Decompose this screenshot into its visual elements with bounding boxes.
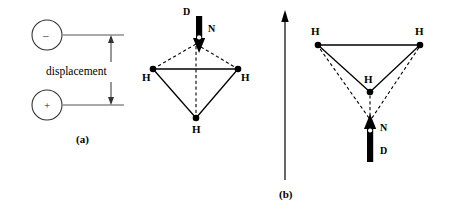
bond-dashed-n-to-h-right-inv — [372, 46, 420, 118]
positive-charge-sign: + — [44, 100, 50, 111]
transition-arrow-up — [281, 10, 288, 180]
dipole-label-up: D — [183, 7, 190, 17]
atom-node-hydrogen-right-inv — [417, 42, 424, 49]
hydrogen-label-front-up: H — [192, 124, 201, 135]
figure-vector-layer — [0, 0, 451, 218]
bond-dashed-n-to-h-left-inv — [318, 46, 369, 118]
dimension-arrowhead-top — [108, 35, 114, 43]
nitrogen-label-inv: N — [380, 123, 387, 133]
nitrogen-atom-marker-inv — [368, 128, 372, 132]
atom-node-hydrogen-front-inv — [367, 89, 374, 96]
bond-h-right-to-h-front — [196, 69, 238, 118]
bond-h-left-to-h-front — [153, 69, 196, 118]
dipole-label-inv: D — [380, 146, 387, 156]
nitrogen-atom-marker — [197, 35, 201, 39]
bond-h-left-to-h-front-inv — [318, 45, 370, 92]
panel-a-caption: (a) — [76, 134, 89, 145]
hydrogen-label-left-up: H — [142, 72, 151, 83]
bond-h-right-to-h-front-inv — [370, 45, 420, 92]
hydrogen-label-right-inv: H — [415, 26, 424, 37]
dipole-arrow-head-inv — [364, 114, 376, 129]
figure-canvas: – + displacement (a) D N H H H H H H N D… — [0, 0, 451, 218]
hydrogen-label-right-up: H — [241, 72, 250, 83]
nitrogen-label-up: N — [208, 24, 215, 34]
transition-arrow-head — [281, 10, 288, 22]
bond-dashed-n-to-h-right — [196, 44, 238, 69]
bond-dashed-n-to-h-left — [153, 44, 196, 69]
molecule-up-group — [150, 16, 242, 121]
hydrogen-label-front-inv: H — [364, 74, 373, 85]
dipole-arrow-up — [364, 114, 376, 162]
panel-b-caption: (b) — [279, 189, 292, 200]
dimension-arrowhead-bottom — [108, 97, 114, 105]
atom-node-hydrogen-left-inv — [315, 42, 322, 49]
dipole-arrow-head — [193, 38, 205, 53]
hydrogen-label-left-inv: H — [311, 26, 320, 37]
negative-charge-sign: – — [43, 30, 49, 41]
molecule-inverted-group — [315, 42, 424, 162]
atom-node-hydrogen-front — [193, 115, 200, 122]
dipole-arrow-shaft-inv — [367, 128, 373, 162]
dipole-arrow-down — [193, 16, 205, 53]
displacement-label: displacement — [46, 66, 107, 78]
